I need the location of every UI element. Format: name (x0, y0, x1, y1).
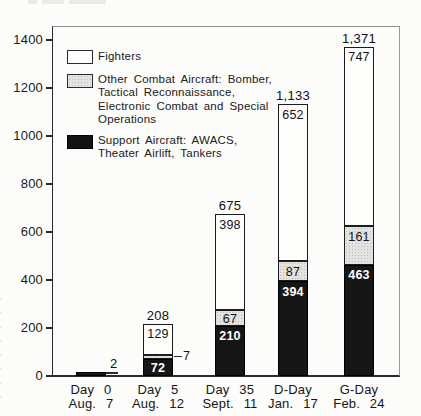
segment-callout-line (174, 356, 182, 358)
segment-label: 87 (278, 265, 308, 279)
y-axis-tick-label: 400 (0, 272, 43, 288)
segment-label: 129 (143, 327, 173, 341)
y-axis-tick (46, 375, 52, 377)
legend-label-fighters-line: Fighters (98, 50, 141, 64)
x-axis-category-label: Feb. 24 (314, 396, 404, 411)
scan-artifact-top (28, 0, 106, 4)
segment-label: 463 (344, 268, 374, 282)
y-axis-tick (46, 39, 52, 41)
bar-segment-fighters (344, 47, 374, 226)
bar-total-label: 1,133 (263, 88, 323, 103)
y-axis-tick (46, 231, 52, 233)
y-axis-tick-label: 1400 (0, 32, 43, 48)
y-axis-tick (46, 279, 52, 281)
legend-label-other-line: Other Combat Aircraft: Bomber, (98, 73, 272, 87)
segment-label: 210 (215, 329, 245, 343)
y-axis-tick (46, 327, 52, 329)
y-axis-tick (46, 183, 52, 185)
x-axis-category-label: G-Day (314, 382, 404, 397)
bar-total-label: 2 (110, 356, 128, 371)
bar-total-leader-line (106, 372, 118, 374)
legend-swatch-other (67, 74, 93, 88)
legend-label-other-line: Operations (98, 113, 156, 127)
legend-swatch-fighters (67, 50, 93, 64)
segment-label: 67 (215, 312, 245, 326)
y-axis-tick (46, 135, 52, 137)
y-axis-tick-label: 200 (0, 320, 43, 336)
y-axis-tick-label: 800 (0, 176, 43, 192)
legend-label-other-line: Tactical Reconnaissance, (98, 86, 235, 100)
y-axis-tick (46, 87, 52, 89)
bar-segment-fighters (278, 104, 308, 260)
legend-label-support-line: Theater Airlift, Tankers (98, 147, 222, 161)
segment-label: 394 (278, 285, 308, 299)
legend-swatch-support (67, 135, 93, 149)
scanned-chart-page: 02004006008001000120014002Day 0Aug. 7727… (0, 0, 421, 416)
legend-label-support-line: Support Aircraft: AWACS, (98, 134, 237, 148)
segment-label: 72 (143, 361, 173, 375)
segment-label-callout: 7 (183, 349, 197, 363)
segment-label: 747 (344, 50, 374, 64)
y-axis-tick-label: 600 (0, 224, 43, 240)
segment-label: 398 (215, 218, 245, 232)
y-axis-tick-label: 1000 (0, 128, 43, 144)
segment-label: 652 (278, 108, 308, 122)
y-axis-tick-label: 0 (0, 368, 43, 384)
bar-total-label: 675 (200, 198, 260, 213)
legend-label-other-line: Electronic Combat and Special (98, 100, 269, 114)
bar-total-label: 208 (128, 308, 188, 323)
bar-segment-support (76, 372, 106, 376)
y-axis-tick-label: 1200 (0, 80, 43, 96)
bar-segment-other (143, 355, 173, 359)
segment-label: 161 (344, 230, 374, 244)
bar-total-label: 1,371 (329, 31, 389, 46)
